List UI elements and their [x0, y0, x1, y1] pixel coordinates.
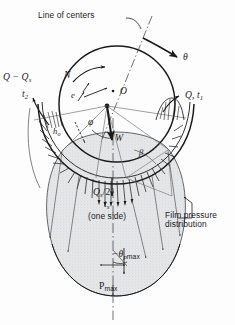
label-center-O: O [120, 86, 127, 97]
inflow-main: Q, t [185, 89, 200, 100]
label-rotation-speed-N: N [64, 70, 71, 81]
outflow-arrow-left [33, 98, 49, 125]
p-max-subscript: max [104, 285, 117, 292]
label-attitude-angle-phi: φ [88, 117, 93, 128]
outflow-main: Q − Q [3, 71, 29, 82]
min-film-subscript: o [57, 131, 60, 137]
theta-p-max-sub-max: max [127, 253, 140, 260]
side-flow-main: Q [93, 186, 100, 197]
rotation-arrow-N [73, 67, 105, 82]
label-theta-p-max: −θpmax [112, 249, 140, 260]
figure-drawing [0, 0, 235, 325]
outflow-temp-subscript: 2 [25, 93, 28, 100]
outflow-subscript: s [29, 76, 32, 83]
bearing-center-dot [112, 90, 115, 93]
journal-bearing-figure: Line of centers θ N e O Q − Qs t2 Q, t1 … [0, 0, 235, 325]
inflow-hatch-right [160, 99, 179, 120]
side-temp-subscript: s [107, 203, 110, 210]
label-side-flow-Qs: Qs/2 [93, 187, 110, 198]
label-outflow-Q-minus-Qs: Q − Qs [3, 72, 31, 83]
label-film-pressure-distribution: Film pressure distribution [165, 211, 217, 230]
label-load-W: W [115, 133, 123, 144]
line-of-centers-leader [126, 18, 141, 29]
label-eccentricity-e: e [71, 91, 75, 101]
inflow-subscript: 1 [200, 94, 203, 101]
label-outflow-temp-t2: t2 [22, 89, 28, 100]
theta-p-max-main: −θ [112, 248, 123, 259]
label-min-film-thickness: ho [53, 127, 61, 137]
label-one-side: (one side) [88, 212, 126, 221]
eccentricity-marker [78, 83, 107, 101]
label-line-of-centers: Line of centers [38, 11, 94, 20]
theta-arrow [143, 38, 177, 57]
label-inflow-Q-t1: Q, t1 [185, 90, 203, 101]
film-pressure-line-2: distribution [165, 220, 217, 229]
label-p-max: Pmax [99, 281, 117, 292]
side-flow-divisor: /2 [103, 186, 111, 197]
label-beta: β [139, 148, 143, 158]
label-side-temp-ts: ts [104, 199, 109, 210]
label-theta: θ [183, 52, 188, 63]
